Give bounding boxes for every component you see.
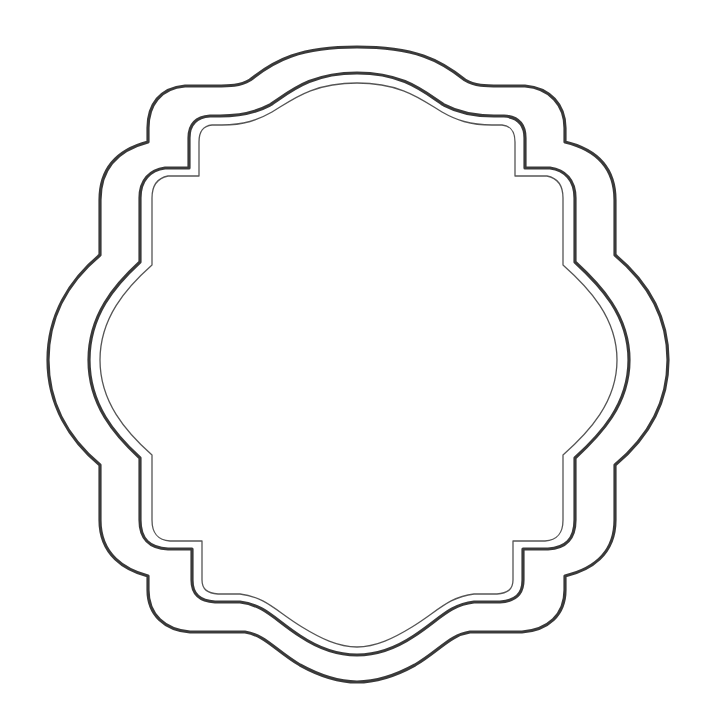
- decorative-frame-graphic: [0, 0, 713, 716]
